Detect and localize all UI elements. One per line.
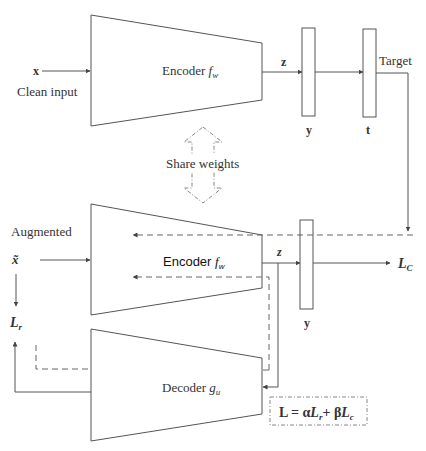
top-t-label: t xyxy=(366,123,370,137)
bottom-input-symbol: x̃ xyxy=(11,252,19,267)
target-label: Target xyxy=(379,53,412,68)
bottom-z-label: z xyxy=(276,245,282,259)
top-z-label: z xyxy=(281,55,287,69)
target-to-lc-line xyxy=(376,73,408,231)
bottom-y-label: y xyxy=(304,316,310,330)
top-y-label: y xyxy=(306,123,312,137)
decoder-label: Decoder gu xyxy=(162,380,221,397)
lr-label: Lr xyxy=(9,315,23,332)
top-y-layer xyxy=(302,28,315,116)
decoder-to-lr-arrow xyxy=(15,342,91,392)
top-input-label: Clean input xyxy=(17,84,78,99)
top-t-layer xyxy=(363,29,376,117)
loss-formula: L = αLr+ βLc xyxy=(279,405,354,422)
z-to-decoder-line xyxy=(263,263,278,387)
top-encoder-label: Encoder fw xyxy=(162,63,218,80)
diagram-canvas: x Clean input Encoder fw z y t Target Sh… xyxy=(0,0,426,451)
share-weights-label: Share weights xyxy=(166,156,239,171)
lc-label: LC xyxy=(397,256,414,273)
augmented-label: Augmented xyxy=(11,224,72,239)
bottom-encoder-label: Encoder fw xyxy=(163,254,226,271)
top-input-symbol: x xyxy=(33,64,39,78)
bottom-y-layer xyxy=(300,220,313,309)
decoder-dashed-feedback xyxy=(36,345,91,369)
